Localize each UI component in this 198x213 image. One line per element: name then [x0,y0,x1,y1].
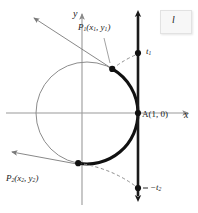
point-t1-label: t1 [146,47,151,56]
leader-arrow-lower [12,152,77,164]
point-t2-label: −t2 [150,183,161,192]
y-axis-label: y [73,9,77,19]
tangent-line-label: l [172,15,175,25]
p2-close: ) [35,173,38,183]
dashed-wrap-upper [112,54,138,69]
point-a [135,110,141,116]
point-p1-label: P1(x1, y1) [78,23,110,32]
point-p1 [109,66,115,72]
point-a-label: A(1, 0) [142,110,168,119]
point-t1 [135,50,141,56]
wrapped-arc [78,69,138,164]
tangent-line-bottom-arrow [135,195,141,202]
point-t2 [135,185,141,191]
t2-letter: −t [150,182,159,192]
p1-label-connector [104,38,110,63]
p2-comma: , y [24,173,33,183]
t1-index: 1 [149,50,152,56]
point-p2-label: P2(x2, y2) [6,174,38,183]
line-label-callout [160,10,192,34]
x-axis-label: x [184,110,188,120]
figure-canvas: y x l P1(x1, y1) P2(x2, y2) A(1, 0) t1 −… [0,0,198,213]
dashed-wrap-lower [78,163,138,188]
p1-comma: , y [96,22,105,32]
p1-close: ) [107,22,110,32]
point-p2 [75,160,81,166]
t2-index: 2 [159,186,162,192]
